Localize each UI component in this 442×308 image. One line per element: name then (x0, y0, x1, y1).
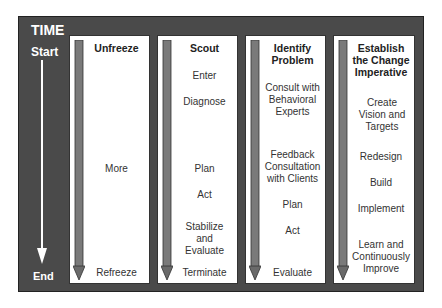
step-label: Act (174, 189, 235, 201)
column-title: Establish the Change Imperative (350, 42, 412, 78)
step-label: Redesign (350, 151, 412, 163)
step-label: Plan (262, 199, 323, 211)
time-start-label: Start (31, 45, 58, 59)
step-label: Build (350, 177, 412, 189)
column-title: Identify Problem (268, 42, 317, 66)
down-arrow-icon (337, 40, 349, 282)
step-label: Implement (350, 203, 412, 215)
column-identify-problem: Identify Problem Consult with Behavioral… (245, 35, 326, 284)
column-establish-change-imperative: Establish the Change Imperative Create V… (333, 35, 415, 284)
step-label: Act (262, 225, 323, 237)
step-label: Learn and Continuously Improve (350, 239, 412, 275)
time-end-label: End (33, 270, 54, 282)
step-label: Consult with Behavioral Experts (260, 82, 325, 118)
step-label: Diagnose (174, 96, 235, 108)
step-label: Terminate (174, 267, 235, 279)
step-label: Stabilize and Evaluate (180, 221, 229, 257)
step-label: Enter (174, 70, 235, 82)
column-unfreeze: Unfreeze More Refreeze (69, 35, 150, 284)
down-arrow-icon (73, 40, 85, 282)
step-label: More (86, 163, 147, 175)
time-arrow-icon (37, 60, 47, 264)
step-label: Feedback Consultation with Clients (260, 149, 325, 185)
column-scout: Scout Enter Diagnose Plan Act Stabilize … (157, 35, 238, 284)
column-title: Scout (174, 42, 235, 54)
step-label: Refreeze (86, 267, 147, 279)
time-axis-title: TIME (31, 22, 64, 38)
step-label: Create Vision and Targets (354, 97, 410, 133)
step-label: Evaluate (262, 267, 323, 279)
column-title: Unfreeze (86, 42, 147, 54)
step-label: Plan (174, 163, 235, 175)
down-arrow-icon (161, 40, 173, 282)
